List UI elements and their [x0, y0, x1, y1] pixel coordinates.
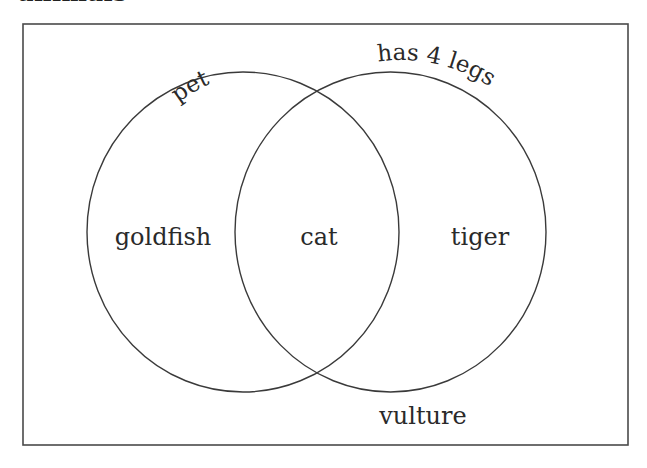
region-label-has-4-legs-only: tiger	[451, 223, 510, 251]
set-label-pet-text: pet	[166, 64, 213, 107]
set-label-pet: pet	[166, 64, 213, 107]
venn-diagram: pet has 4 legs goldfish cat tiger vultur…	[0, 0, 647, 468]
region-label-neither: vulture	[378, 402, 466, 430]
region-label-both: cat	[300, 223, 338, 251]
region-label-pet-only: goldfish	[115, 223, 212, 251]
set-label-has-4-legs: has 4 legs	[376, 39, 501, 91]
set-label-has-4-legs-text: has 4 legs	[376, 39, 501, 91]
